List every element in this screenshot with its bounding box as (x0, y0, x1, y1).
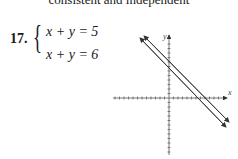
y-axis (168, 35, 171, 155)
coordinate-graph: x y (0, 0, 238, 159)
y-axis-label: y (162, 32, 167, 41)
line-x-plus-y-eq-6 (144, 36, 229, 122)
line-x-plus-y-eq-5 (140, 38, 226, 127)
x-axis (113, 97, 227, 100)
x-axis-label: x (227, 88, 232, 97)
